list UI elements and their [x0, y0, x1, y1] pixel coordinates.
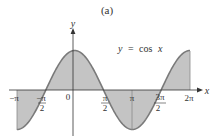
- tick-zero: 0: [66, 92, 71, 102]
- y-axis-label: y: [70, 18, 76, 29]
- x-axis-label: x: [204, 85, 210, 96]
- tick-pi-half-den: 2: [103, 103, 108, 113]
- tick-pi-half-num: π: [103, 93, 108, 103]
- panel-label: (a): [101, 4, 114, 17]
- tick-neg-pi-half-den: 2: [40, 103, 45, 113]
- tick-three-pi-half-den: 2: [156, 103, 161, 113]
- tick-neg-pi-half-num: −π: [36, 93, 46, 103]
- cosine-figure: (a) y x y = cos x −π −π 2 0 π 2 π 3π 2 2…: [0, 0, 214, 139]
- tick-two-pi: 2π: [184, 93, 194, 103]
- tick-pi: π: [130, 93, 135, 103]
- tick-neg-pi: −π: [9, 93, 19, 103]
- equation-label: y = cos x: [117, 43, 163, 54]
- x-axis-arrow-icon: [197, 88, 203, 93]
- cosine-plot: (a) y x y = cos x −π −π 2 0 π 2 π 3π 2 2…: [0, 0, 214, 139]
- tick-three-pi-half-num: 3π: [155, 92, 165, 102]
